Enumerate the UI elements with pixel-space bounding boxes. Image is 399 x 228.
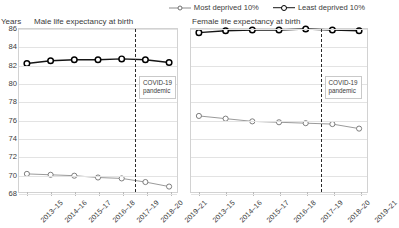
data-point-marker [196,30,202,36]
legend-item-most-deprived: Most deprived 10% [169,3,259,12]
series-layer-male [19,29,177,192]
y-axis-tick-label: 70 [9,172,17,180]
chart-panel-male: Years Male life expectancy at birth 2013… [0,18,180,228]
chart-legend: Most deprived 10% Least deprived 10% [0,0,371,15]
legend-label-least-deprived: Least deprived 10% [298,4,365,12]
covid-annotation-line-1: COVID-19 [143,79,172,87]
data-point-marker [143,57,149,63]
y-axis-tick-label: 72 [9,154,17,162]
gridline [19,29,177,30]
x-axis-tick-label: 2015–17 [265,199,290,224]
x-axis-female: 2013–152014–162015–172016–182017–192018–… [191,192,367,198]
x-axis-tick-label: 2014–16 [238,199,263,224]
x-axis-tick-label: 2019–21 [373,199,398,224]
gridline [191,121,367,122]
legend-item-least-deprived: Least deprived 10% [273,3,365,12]
covid-annotation-line-2: pandemic [143,87,172,95]
x-axis-tick-label: 2016–18 [111,199,136,224]
legend-label-most-deprived: Most deprived 10% [194,4,259,12]
gridline [19,47,177,48]
y-axis-tick-label: 76 [9,117,17,125]
gridline [19,66,177,67]
gridline [191,157,367,158]
legend-marker-least-deprived-icon [273,3,295,12]
data-point-marker [143,179,148,184]
covid-annotation-line-1: COVID-19 [329,79,358,87]
x-axis-tick-label: 2016–18 [292,199,317,224]
x-axis-tick-label: 2015–17 [87,199,112,224]
plot-area-male: 2013–152014–162015–172016–182017–192018–… [18,28,178,193]
data-point-marker [196,113,201,118]
y-axis-tick-label: 78 [9,99,17,107]
x-axis-tick-label: 2017–19 [319,199,344,224]
gridline [19,157,177,158]
data-point-marker [119,56,125,62]
data-point-marker [166,60,172,66]
chart-title-male: Male life expectancy at birth [34,18,133,26]
data-point-marker [95,57,101,63]
covid-annotation-line-2: pandemic [329,87,358,95]
gridline [191,176,367,177]
gridline [191,66,367,67]
x-axis-tick-label: 2014–16 [63,199,88,224]
covid-marker-line [321,29,322,192]
x-axis-male: 2013–152014–162015–172016–182017–192018–… [19,192,177,198]
x-axis-tick-label: 2013–15 [39,199,64,224]
covid-annotation-box: COVID-19pandemic [325,76,362,99]
legend-marker-most-deprived-icon [169,3,191,12]
y-axis-tick-label: 86 [9,25,17,33]
gridline [19,139,177,140]
x-axis-tick-label: 2017–19 [135,199,160,224]
data-point-marker [357,126,362,131]
gridline [191,194,367,195]
plot-area-female: 2013–152014–162015–172016–182017–192018–… [190,28,368,193]
y-axis-tick-label: 68 [9,190,17,198]
gridline [191,102,367,103]
gridline [191,29,367,30]
x-axis-tick-label: 2018–20 [346,199,371,224]
y-axis-tick-label: 82 [9,62,17,70]
gridline [191,47,367,48]
x-axis-tick-label: 2018–20 [159,199,184,224]
x-axis-tick-label: 2013–15 [211,199,236,224]
y-axis-tick-label: 74 [9,135,17,143]
gridline [19,194,177,195]
gridline [19,176,177,177]
data-point-marker [167,184,172,189]
data-point-marker [48,58,54,64]
y-axis-tick-label: 84 [9,44,17,52]
data-point-marker [72,57,78,63]
chart-title-female: Female life expectancy at birth [192,18,301,26]
gridline [191,139,367,140]
series-layer-female [191,29,367,192]
chart-panel-female: Female life expectancy at birth 2013–152… [186,18,371,228]
covid-marker-line [135,29,136,192]
gridline [19,121,177,122]
data-point-marker [330,122,335,127]
covid-annotation-box: COVID-19pandemic [139,76,176,99]
gridline [19,102,177,103]
y-axis-tick-label: 80 [9,80,17,88]
